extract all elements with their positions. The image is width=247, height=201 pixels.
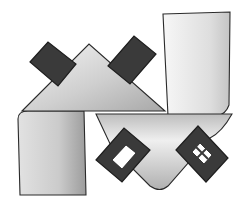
right-tall-panel xyxy=(163,12,230,116)
left-panel xyxy=(18,111,86,195)
pencil-sketch xyxy=(0,0,247,201)
